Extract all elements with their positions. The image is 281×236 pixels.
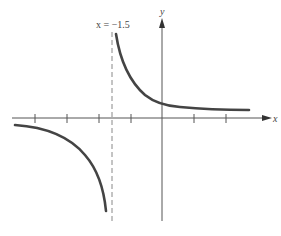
asymptote-label: x = −1.5	[96, 19, 130, 30]
curve-left-branch	[15, 125, 106, 211]
curve-right-branch	[116, 34, 249, 110]
graph: x y x = −1.5	[0, 0, 281, 236]
y-axis-arrow-icon	[159, 18, 165, 28]
y-axis-label: y	[159, 6, 165, 17]
x-axis-arrow-icon	[262, 115, 272, 121]
x-axis-label: x	[272, 113, 278, 124]
